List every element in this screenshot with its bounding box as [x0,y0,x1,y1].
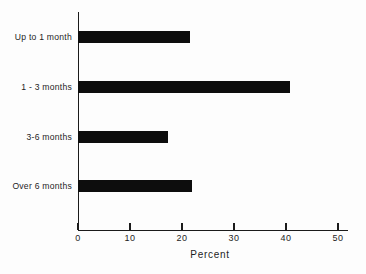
x-axis-tick-0 [77,223,78,230]
y-axis-line [78,12,79,231]
x-axis-title-text: Percent [190,249,229,260]
category-label: Up to 1 month [15,32,72,42]
category-label: Over 6 months [12,181,72,191]
x-axis-tick-5 [337,223,338,230]
x-axis-line [78,230,348,231]
x-axis-tick-3 [233,223,234,230]
bar [78,131,168,143]
x-axis-tick-label: 0 [75,233,80,243]
x-axis-tick-label: 20 [177,233,188,243]
chart-page: 0 10 20 30 40 50 Up to 1 month 1 - 3 mon… [0,0,366,274]
x-axis-tick-label: 40 [281,233,292,243]
bar [78,31,190,43]
bar [78,81,290,93]
bar-chart-plot-area: 0 10 20 30 40 50 Up to 1 month 1 - 3 mon… [0,0,366,274]
category-label: 1 - 3 months [21,82,72,92]
bar [78,180,192,192]
x-axis-tick-2 [181,223,182,230]
x-axis-title: Percent [0,249,366,260]
x-axis-tick-label: 50 [333,233,344,243]
category-label: 3-6 months [27,132,73,142]
x-axis-tick-label: 30 [229,233,240,243]
x-axis-tick-4 [285,223,286,230]
x-axis-tick-label: 10 [125,233,136,243]
x-axis-tick-1 [129,223,130,230]
